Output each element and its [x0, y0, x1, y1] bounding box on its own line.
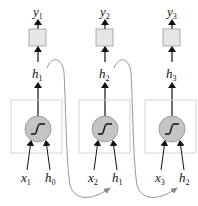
arrow-icon — [27, 141, 31, 170]
hidden-label-h2: h2 — [99, 66, 110, 83]
arrow-icon — [94, 141, 98, 170]
hidden-label-h1: h1 — [32, 66, 43, 83]
time-step-2: y2 h2 x2 h1 — [79, 4, 130, 187]
rnn-diagram: y1 h1 x1 h0 y2 h2 x2 h1 y3 h3 — [0, 0, 198, 206]
neuron — [92, 116, 118, 142]
arrow-icon — [161, 141, 165, 170]
input-label-h1: h1 — [112, 170, 123, 187]
neuron — [159, 116, 185, 142]
arrow-icon — [180, 141, 184, 170]
time-step-1: y1 h1 x1 h0 — [11, 4, 62, 187]
input-label-h2: h2 — [179, 170, 190, 187]
input-label-x1: x1 — [20, 170, 31, 187]
arrow-icon — [113, 141, 117, 170]
output-layer-box — [29, 29, 46, 46]
input-label-h0: h0 — [45, 170, 56, 187]
input-label-x3: x3 — [154, 170, 165, 187]
output-label-y2: y2 — [98, 4, 110, 21]
output-label-y3: y3 — [165, 4, 177, 21]
output-label-y1: y1 — [31, 4, 43, 21]
time-step-3: y3 h3 x3 h2 — [145, 4, 196, 187]
hidden-label-h3: h3 — [166, 66, 177, 83]
output-layer-box — [163, 29, 180, 46]
input-label-x2: x2 — [87, 170, 98, 187]
output-layer-box — [96, 29, 113, 46]
arrow-icon — [46, 141, 50, 170]
neuron — [25, 116, 51, 142]
